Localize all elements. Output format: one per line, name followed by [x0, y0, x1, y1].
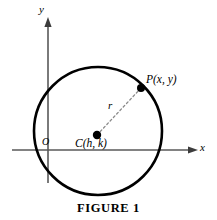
y-axis-label: y [39, 4, 44, 15]
point-p-label: P(x, y) [146, 74, 177, 86]
x-axis-arrowhead [188, 146, 198, 153]
radius-dashed-segment [97, 88, 141, 135]
figure-container: y x O C(h, k) P(x, y) r FIGURE 1 [0, 0, 217, 220]
origin-label: O [42, 137, 49, 147]
y-axis-arrowhead [44, 17, 51, 27]
center-point-label: C(h, k) [75, 138, 107, 150]
point-p-marker [137, 84, 145, 92]
radius-label: r [108, 100, 112, 111]
x-axis-label: x [200, 142, 205, 153]
figure-caption: FIGURE 1 [0, 201, 217, 216]
